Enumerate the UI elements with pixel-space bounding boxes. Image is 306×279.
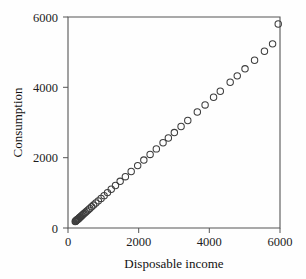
data-point	[185, 117, 191, 123]
y-axis-ticks	[63, 17, 68, 228]
scatter-plot-figure: 0 2000 4000 6000 0 2000 4000 6000 Dispos…	[0, 0, 306, 279]
data-point	[202, 102, 208, 108]
data-point	[160, 140, 166, 146]
data-point	[117, 178, 123, 184]
data-point-group	[72, 21, 281, 225]
data-point	[153, 146, 159, 152]
data-point	[165, 135, 171, 141]
data-point	[227, 79, 233, 85]
plot-canvas: 0 2000 4000 6000 0 2000 4000 6000 Dispos…	[0, 0, 306, 279]
x-tick-labels: 0 2000 4000 6000	[65, 235, 293, 249]
x-tick-label-2000: 2000	[126, 235, 151, 249]
data-point	[122, 173, 128, 179]
y-tick-labels: 0 2000 4000 6000	[33, 11, 58, 236]
data-point	[141, 157, 147, 163]
data-point	[178, 123, 184, 129]
x-axis-title: Disposable income	[124, 256, 224, 271]
data-point	[134, 162, 140, 168]
data-point	[217, 88, 223, 94]
x-tick-label-0: 0	[65, 235, 71, 249]
y-axis-title: Consumption	[10, 87, 25, 158]
y-tick-label-2000: 2000	[33, 151, 58, 165]
data-point	[261, 48, 267, 54]
x-axis-ticks	[68, 228, 280, 233]
data-point	[242, 66, 248, 72]
data-point	[147, 151, 153, 157]
data-point	[251, 57, 257, 63]
data-point	[269, 41, 275, 47]
data-point	[171, 129, 177, 135]
data-point	[128, 168, 134, 174]
data-point	[194, 109, 200, 115]
y-tick-label-0: 0	[52, 222, 58, 236]
plot-frame	[68, 17, 280, 228]
x-tick-label-4000: 4000	[197, 235, 222, 249]
x-tick-label-6000: 6000	[268, 235, 293, 249]
y-tick-label-4000: 4000	[33, 81, 58, 95]
y-tick-label-6000: 6000	[33, 11, 58, 25]
frame-border	[68, 17, 280, 228]
data-point	[210, 94, 216, 100]
data-point	[234, 73, 240, 79]
